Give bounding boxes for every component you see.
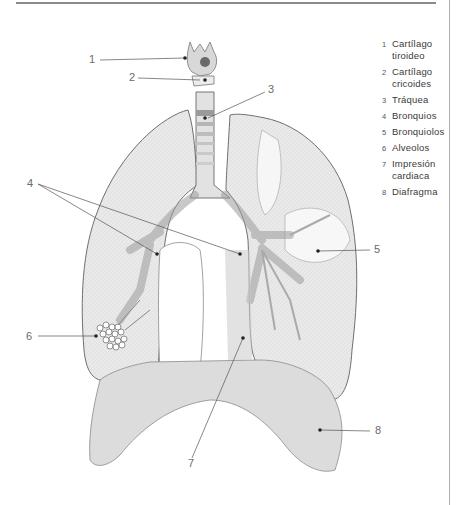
diaphragm <box>90 360 342 471</box>
callout-4: 4 <box>27 177 33 189</box>
callout-5: 5 <box>374 243 380 255</box>
callout-6: 6 <box>26 330 32 342</box>
legend-item: 6 Alveolos <box>382 142 452 154</box>
legend-item: 3 Tráquea <box>382 94 452 106</box>
legend-item: 2 Cartílagocricoides <box>382 66 452 90</box>
callout-1: 1 <box>89 53 95 65</box>
callout-8: 8 <box>375 424 381 436</box>
legend-item: 8 Diafragma <box>382 186 452 198</box>
callout-7: 7 <box>188 457 194 469</box>
legend-item: 5 Bronquiolos <box>382 126 452 138</box>
callout-3: 3 <box>268 83 274 95</box>
legend-item: 7 Impresióncardiaca <box>382 158 452 182</box>
legend: 1 Cartílagotiroideo 2 Cartílagocricoides… <box>382 38 452 202</box>
legend-item: 1 Cartílagotiroideo <box>382 38 452 62</box>
legend-item: 4 Bronquios <box>382 110 452 122</box>
cricoid-cartilage <box>192 76 214 86</box>
callout-2: 2 <box>129 71 135 83</box>
